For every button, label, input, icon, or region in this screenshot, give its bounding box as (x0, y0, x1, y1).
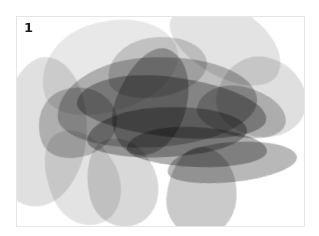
artwork-frame: 1 (16, 16, 305, 227)
artwork-stage: 1 (0, 0, 319, 236)
panel-number-label: 1 (24, 21, 33, 34)
